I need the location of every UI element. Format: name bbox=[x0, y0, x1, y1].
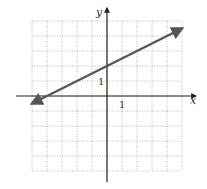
x-tick-label: 1 bbox=[119, 99, 125, 110]
coordinate-plane: y x 1 1 bbox=[0, 0, 207, 189]
y-tick-label: 1 bbox=[98, 76, 104, 87]
x-axis-label: x bbox=[190, 94, 197, 107]
y-axis-label: y bbox=[95, 6, 103, 19]
